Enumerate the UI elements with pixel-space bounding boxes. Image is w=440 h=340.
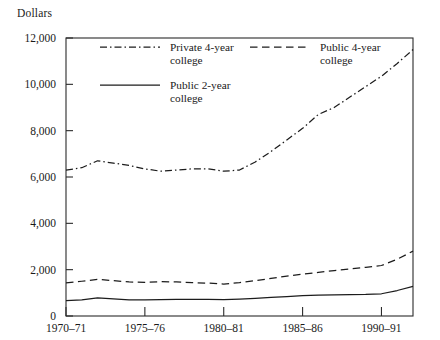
x-tick-label-1970-71: 1970–71: [46, 322, 87, 334]
data-series-group: [66, 50, 413, 301]
series-line-public-4-year-college: [66, 251, 413, 284]
legend-label-public-4-year-line2: college: [320, 54, 353, 66]
x-axis-tick-labels: 1970–711975–761980–811985–861990–91: [46, 322, 402, 334]
legend-label-private-4-year-line2: college: [170, 54, 203, 66]
legend-label-public-2-year-line2: college: [170, 92, 203, 104]
y-tick-label-2000: 2,000: [30, 264, 56, 277]
x-tick-label-1985-86: 1985–86: [282, 322, 323, 334]
x-tick-label-1980-81: 1980–81: [204, 322, 245, 334]
x-tick-label-1990-91: 1990–91: [361, 322, 402, 334]
series-line-private-4-year-college: [66, 50, 413, 172]
legend-label-public-2-year-line1: Public 2-year: [170, 79, 231, 91]
y-tick-label-0: 0: [50, 310, 56, 322]
chart-legend: Private 4-year college Public 4-year col…: [100, 41, 381, 104]
legend-label-private-4-year-line1: Private 4-year: [170, 41, 234, 53]
y-tick-label-10000: 10,000: [24, 78, 56, 91]
y-axis-ticks: [66, 38, 73, 316]
y-tick-label-4000: 4,000: [30, 217, 56, 230]
chart-container: Dollars 02,0004,0006,0008,00010,00012,00…: [0, 0, 440, 340]
legend-label-public-4-year-line1: Public 4-year: [320, 41, 381, 53]
x-tick-label-1975-76: 1975–76: [125, 322, 166, 334]
x-axis-ticks: [66, 307, 381, 316]
series-line-public-2-year-college: [66, 286, 413, 300]
line-chart: 02,0004,0006,0008,00010,00012,000 1970–7…: [0, 0, 440, 340]
y-tick-label-12000: 12,000: [24, 32, 56, 45]
plot-frame: [66, 38, 413, 316]
y-tick-label-8000: 8,000: [30, 125, 56, 138]
y-tick-label-6000: 6,000: [30, 171, 56, 184]
y-axis-tick-labels: 02,0004,0006,0008,00010,00012,000: [24, 32, 56, 322]
